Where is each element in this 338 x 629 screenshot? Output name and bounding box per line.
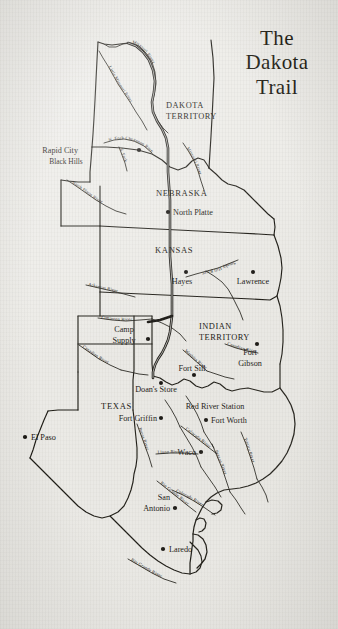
dakota-trail-main[interactable] <box>128 43 172 378</box>
label-texas: TEXAS <box>101 401 132 411</box>
map-page: DAKOTA TERRITORY NEBRASKA KANSAS INDIAN … <box>0 0 338 629</box>
label-fort-gibson-2: Gibson <box>238 359 262 368</box>
texas-nm-north <box>48 410 78 411</box>
label-fort-griffin: Fort Griffin <box>119 414 157 423</box>
rivers-layer <box>67 43 268 583</box>
tributary-kansas-2 <box>232 296 243 320</box>
label-indian-territory-2: TERRITORY <box>199 333 250 342</box>
nebraska-se-corner <box>274 219 275 235</box>
map-title: The Dakota Trail <box>225 26 329 99</box>
label-lawrence: Lawrence <box>237 277 270 286</box>
label-camp-supply-1: Camp <box>114 325 134 334</box>
label-s-fork: S. Fork <box>119 147 129 163</box>
dot-fort-gibson[interactable] <box>255 342 259 346</box>
coastal-bay-detail <box>196 518 206 532</box>
label-rio-grande-river-2: Rio Grande River <box>130 557 163 579</box>
tributary-brazos-lower <box>201 467 221 497</box>
label-dakota-territory-1: DAKOTA <box>166 101 204 110</box>
dot-el-paso[interactable] <box>23 435 27 439</box>
label-black-hills: Black Hills <box>49 157 83 166</box>
label-smoky-hill-river: Smoky Hill River <box>201 260 236 276</box>
label-missouri-river: Missouri River <box>132 40 157 64</box>
label-san-antonio-1: San <box>158 493 170 502</box>
label-laredo: Laredo <box>169 545 192 554</box>
label-hayes: Hayes <box>172 277 192 286</box>
label-indian-territory-1: INDIAN <box>199 322 232 331</box>
label-el-paso: El Paso <box>31 433 56 442</box>
nebraska-south-border <box>100 226 274 235</box>
dot-hayes[interactable] <box>184 270 188 274</box>
it-east-border <box>277 296 283 364</box>
label-nebraska: NEBRASKA <box>156 188 208 198</box>
dakota-east-border <box>209 40 214 168</box>
label-doans-store: Doan's Store <box>135 385 177 394</box>
tributary-washita-lower <box>207 371 234 379</box>
label-missouri-river-2: Missouri River <box>186 146 203 176</box>
label-camp-supply-2: Supply <box>112 336 136 345</box>
dakota-trail-centerline <box>128 43 172 378</box>
label-dakota-territory-2: TERRITORY <box>166 112 217 121</box>
dot-waco[interactable] <box>199 450 203 454</box>
dot-rapid-city[interactable] <box>137 148 141 152</box>
dot-fort-griffin[interactable] <box>159 416 163 420</box>
padre-island-detail <box>193 534 207 568</box>
dot-camp-supply[interactable] <box>146 337 150 341</box>
tributary-trinity-lower <box>257 479 268 502</box>
label-trinity-river: Trinity River <box>243 437 256 464</box>
dakota-west-border <box>92 42 98 147</box>
galveston-bay-detail <box>206 500 222 514</box>
it-west-border <box>152 316 153 376</box>
label-red-river-station: Red River Station <box>186 402 245 411</box>
nebraska-east-border <box>209 168 274 219</box>
dakota-trail-route[interactable] <box>128 43 172 378</box>
label-brazos-river: Brazos River <box>214 449 228 475</box>
dot-north-platte[interactable] <box>166 210 170 214</box>
map-title-line-2: Dakota <box>225 50 329 74</box>
dot-lawrence[interactable] <box>251 270 255 274</box>
texas-rio-grande-west <box>30 410 137 518</box>
tributary-brazos-mouth <box>230 492 245 514</box>
nebraska-west-border <box>90 147 92 182</box>
dot-san-antonio[interactable] <box>173 506 177 510</box>
label-pecos-river: Pecos River <box>138 427 151 451</box>
missouri-river-line <box>104 43 168 133</box>
label-n-fork-cheyenne-river: N. Fork Cheyenne River <box>0 0 154 153</box>
label-north-platte: North Platte <box>173 208 213 217</box>
dot-laredo[interactable] <box>161 547 165 551</box>
label-kansas: KANSAS <box>155 245 193 255</box>
kansas-south-border <box>100 292 277 300</box>
label-little-missouri-river: Little Missouri River <box>108 65 134 103</box>
label-llano-river: Llano River <box>157 449 181 455</box>
label-rapid-city: Rapid City <box>42 146 79 155</box>
dot-fort-sill[interactable] <box>192 373 196 377</box>
label-fort-worth: Fort Worth <box>211 416 247 425</box>
tributary-kansas <box>206 271 232 296</box>
map-title-line-3: Trail <box>225 75 329 99</box>
map-title-line-1: The <box>225 26 329 50</box>
tributary-brazos-upper <box>165 400 180 427</box>
kansas-east-border <box>274 235 282 296</box>
dakota-north-border <box>98 42 128 45</box>
dot-fort-worth[interactable] <box>204 418 208 422</box>
label-san-antonio-2: Antonio <box>143 504 170 513</box>
label-north-platte-river: North Platte River <box>71 180 104 205</box>
label-canadian-river: Canadian River <box>82 344 111 365</box>
